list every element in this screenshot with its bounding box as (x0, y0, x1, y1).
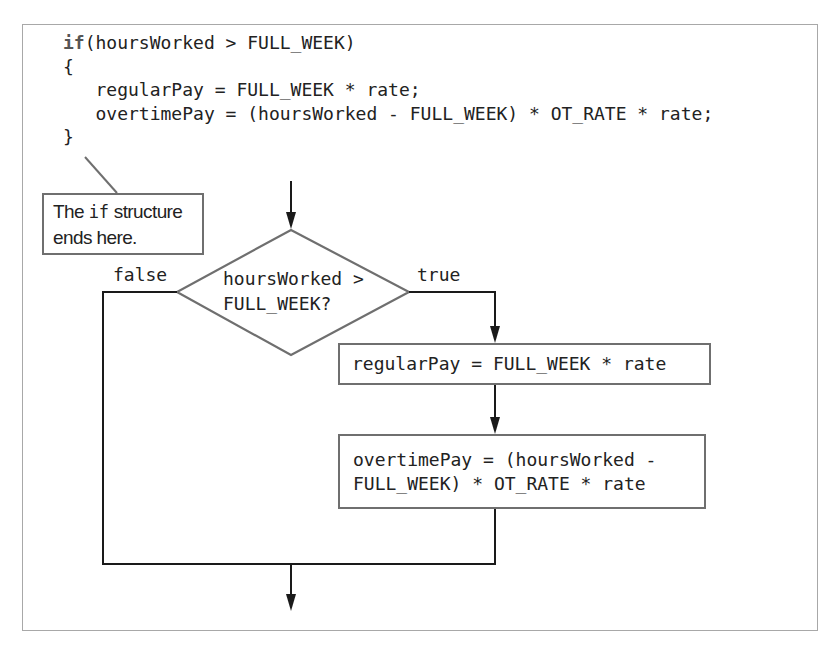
process-arrowhead-icon (490, 417, 500, 434)
process-regular-pay-text: regularPay = FULL_WEEK * rate (352, 353, 666, 374)
decision-text-line-2: FULL_WEEK? (223, 292, 331, 316)
process-regular-pay: regularPay = FULL_WEEK * rate (338, 343, 711, 385)
decision-text-line-1: hoursWorked > (223, 267, 364, 291)
entry-arrowhead-icon (286, 212, 296, 229)
callout-keyword: if (89, 202, 109, 222)
callout-box: The if structureends here. (42, 193, 204, 255)
process-overtime-pay: overtimePay = (hoursWorked - FULL_WEEK) … (338, 434, 706, 509)
true-arrowhead-icon (490, 326, 500, 343)
callout-line-2: ends here. (53, 227, 137, 248)
callout-text-after: structure (109, 201, 182, 222)
flowchart-lines (0, 0, 837, 654)
true-label: true (417, 264, 460, 285)
exit-arrowhead-icon (286, 594, 296, 611)
process-overtime-pay-line-1: overtimePay = (hoursWorked - (353, 449, 656, 470)
callout-leader-line (85, 157, 117, 193)
process-overtime-pay-line-2: FULL_WEEK) * OT_RATE * rate (353, 473, 646, 494)
false-label: false (113, 264, 167, 285)
true-branch-line (409, 292, 495, 327)
callout-text: The (53, 201, 89, 222)
